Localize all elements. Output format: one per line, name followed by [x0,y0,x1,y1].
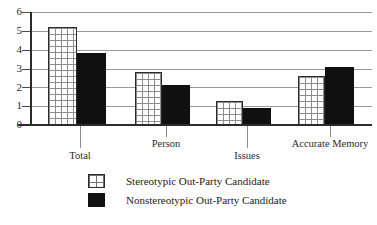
open-grid-swatch-icon [88,174,105,188]
legend-label-stereotypic: Stereotypic Out-Party Candidate [126,172,270,190]
x-axis-baseline [18,124,372,126]
bar-group-accurate-memory [298,12,362,125]
legend-label-nonstereotypic: Nonstereotypic Out-Party Candidate [126,191,287,209]
category-label-accurate-memory: Accurate Memory [283,138,377,149]
bar-group-total [48,12,112,125]
solid-black-swatch-icon [88,193,105,207]
y-tick-3 [22,69,30,70]
bar-accurate-memory-nonstereotypic [325,67,354,125]
y-axis-label-4: 4 [0,44,22,55]
category-label-person: Person [136,138,196,149]
y-axis-label-6: 6 [0,6,22,17]
y-axis-label-3: 3 [0,63,22,74]
bar-person-nonstereotypic [162,85,190,125]
y-tick-5 [22,31,30,32]
leader-line-issues [247,126,248,148]
leader-line-total [80,126,81,148]
y-tick-6 [22,12,30,13]
y-axis-label-5: 5 [0,25,22,36]
bar-accurate-memory-stereotypic [298,76,325,125]
y-tick-2 [22,87,30,88]
category-label-total: Total [50,150,110,161]
y-axis-line [30,12,32,125]
category-label-issues: Issues [217,150,277,161]
leader-line-accurate-memory [330,126,331,137]
y-tick-1 [22,106,30,107]
bar-total-stereotypic [48,27,77,125]
bar-chart: 6 5 4 3 2 1 0 Total Person Issues Accura… [0,0,377,225]
bar-issues-stereotypic [216,101,243,126]
bar-group-person [135,12,199,125]
y-axis-label-1: 1 [0,100,22,111]
plot-area [30,12,372,125]
y-axis-label-2: 2 [0,82,22,93]
bar-person-stereotypic [135,72,162,125]
bar-group-issues [216,12,280,125]
y-tick-4 [22,50,30,51]
leader-line-person [166,126,167,137]
bar-total-nonstereotypic [77,53,106,125]
bar-issues-nonstereotypic [243,108,271,125]
